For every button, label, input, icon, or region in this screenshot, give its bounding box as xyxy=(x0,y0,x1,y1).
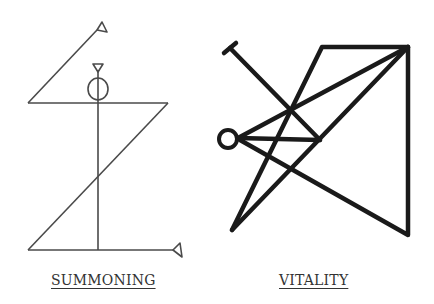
top-arrowhead-icon xyxy=(97,22,107,32)
circle-to-cross xyxy=(238,138,320,140)
vitality-label: VITALITY xyxy=(279,272,348,288)
summoning-label: SUMMONING xyxy=(51,272,156,288)
vitality-sigil xyxy=(219,43,408,235)
bottom-arrowhead-icon xyxy=(173,243,182,257)
sigil-diagram xyxy=(0,0,434,304)
top-right-to-circle xyxy=(238,47,408,138)
upper-diagonal xyxy=(28,30,97,103)
small-triangle-icon xyxy=(93,64,103,72)
summoning-sigil xyxy=(28,22,182,257)
circle-icon xyxy=(219,130,237,148)
staff-line xyxy=(230,48,320,140)
